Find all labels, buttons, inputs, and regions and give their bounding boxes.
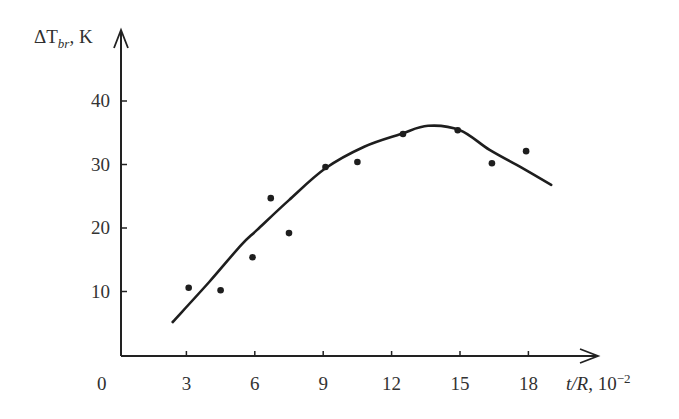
x-tick-label: 9 [303,374,343,393]
data-point [400,131,407,138]
data-points [185,127,529,294]
x-tick-label: 3 [166,374,206,393]
x-axis-label-unit: , 10 [588,373,617,394]
data-point [267,195,274,202]
y-tick-label: 10 [70,282,110,301]
chart-plot-area [0,0,679,419]
data-point [322,164,329,171]
x-tick-label: 18 [508,374,548,393]
y-tick-label: 30 [70,155,110,174]
data-point [489,160,496,167]
x-axis-label-exponent: −2 [617,371,631,386]
y-tick-label: 40 [70,91,110,110]
data-point [185,284,192,291]
x-tick-label: 6 [235,374,275,393]
x-tick-label: 12 [372,374,412,393]
fit-curve [173,126,552,322]
origin-label: 0 [97,374,107,393]
chart-axes [114,30,598,363]
x-axis-label-symbol: t/R [566,373,588,394]
x-tick-label: 15 [440,374,480,393]
y-axis-label-unit: , K [69,26,92,47]
data-point [249,254,256,261]
data-point [454,127,461,134]
y-tick-label: 20 [70,218,110,237]
data-point [286,230,293,237]
axis-ticks [121,101,528,356]
data-point [354,159,361,166]
y-axis-label-subscript: br [58,36,70,51]
data-point [523,148,530,155]
y-axis-label: ΔTbr, K [34,27,93,50]
data-point [217,287,224,294]
x-axis-label: t/R, 10−2 [566,372,631,393]
y-axis-label-symbol: ΔT [34,26,58,47]
